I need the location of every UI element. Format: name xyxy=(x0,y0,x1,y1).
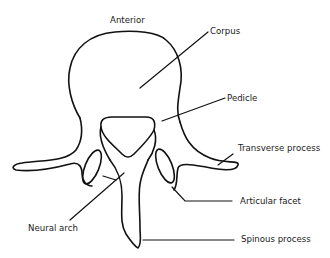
vertebral-canal-outline xyxy=(101,117,155,157)
spinous-process-label: Spinous process xyxy=(241,234,311,244)
transverse-process-label: Transverse process xyxy=(237,143,321,153)
right-articular-facet xyxy=(152,147,178,186)
neural-arch-label: Neural arch xyxy=(28,223,78,233)
left-articular-facet xyxy=(79,148,105,187)
vertebra-diagram: Anterior Corpus Pedicle Transverse proce… xyxy=(0,0,330,258)
spinous-process-outline xyxy=(110,160,148,248)
corpus-label: Corpus xyxy=(210,26,241,36)
corpus-outline xyxy=(69,31,182,122)
pedicle-label: Pedicle xyxy=(227,93,257,103)
left-transverse-process-outline xyxy=(13,118,92,186)
articular-facet-label: Articular facet xyxy=(240,196,302,206)
neural-arch-tick xyxy=(103,176,116,180)
right-transverse-process-outline xyxy=(174,122,238,190)
articular-facet-leader xyxy=(172,187,232,201)
transverse-process-leader xyxy=(218,154,233,165)
corpus-leader xyxy=(140,32,208,88)
anterior-label: Anterior xyxy=(110,15,145,25)
pedicle-leader xyxy=(162,98,225,121)
